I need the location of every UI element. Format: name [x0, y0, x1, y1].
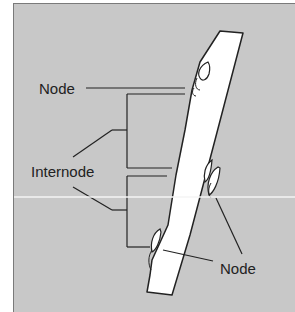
label-node-bottom: Node [220, 260, 256, 277]
leader-line-node-bottom-2 [216, 198, 242, 254]
stem [147, 31, 243, 295]
label-internode: Internode [31, 163, 94, 180]
stem-diagram: Node Internode Node [0, 0, 295, 312]
label-node-top: Node [39, 80, 75, 97]
bud-icon-middle [204, 160, 220, 198]
internode-bracket-upper [73, 94, 185, 168]
